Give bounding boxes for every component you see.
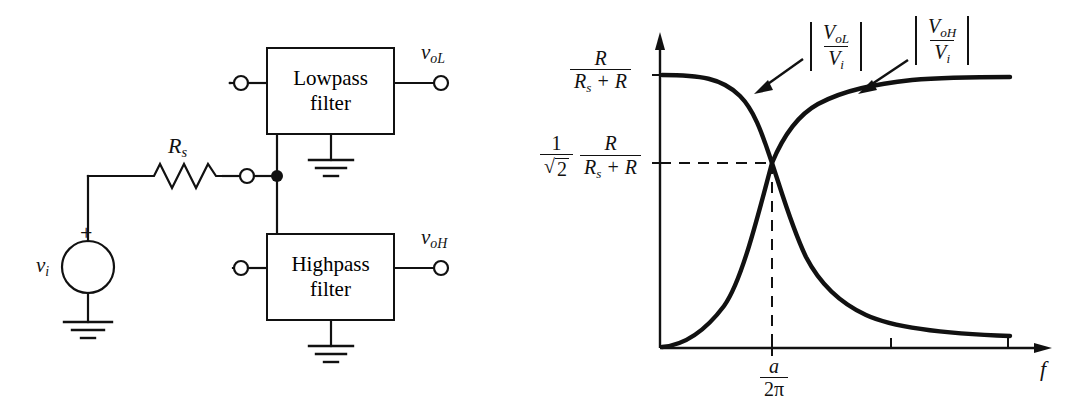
x-axis-arrowhead	[1034, 343, 1052, 353]
y-label-passband-den-sub: s	[586, 80, 591, 95]
cutoff-numerator: a	[769, 355, 779, 377]
annotation-leader-lowpass	[765, 59, 803, 86]
lowpass-ratio-denominator-v: V	[828, 47, 840, 69]
y-axis-arrowhead	[655, 32, 665, 50]
y-label-halfpower-den-plus-r: + R	[606, 156, 637, 178]
y-label-halfpower-numerator: R	[604, 132, 616, 154]
cutoff-denominator: 2π	[764, 378, 784, 400]
sqrt-glyph: √	[544, 156, 555, 176]
y-axis-label-passband: R Rs + R	[570, 48, 631, 95]
absbar-left-lowpass	[810, 22, 812, 71]
x-axis-label-text: f	[1040, 356, 1046, 381]
lowpass-ratio-numerator-v: V	[823, 21, 835, 43]
highpass-ratio-denominator-sub: i	[946, 51, 950, 66]
y-label-halfpower-den-r: R	[584, 156, 596, 178]
highpass-ratio-denominator-v: V	[934, 41, 946, 63]
x-axis-label-f: f	[1040, 358, 1046, 380]
lowpass-ratio-denominator-sub: i	[840, 57, 844, 72]
highpass-ratio-numerator-sub: oH	[940, 25, 956, 40]
curve-label-highpass: VoH Vi	[915, 16, 969, 68]
y-axis-label-half-power: 1 √2 R Rs + R	[540, 133, 641, 180]
x-axis-tick-label-cutoff: a 2π	[760, 356, 788, 400]
half-power-coefficient: 1 √2	[540, 133, 573, 180]
y-label-passband-numerator: R	[594, 47, 606, 69]
y-label-passband-den-plus-r: + R	[596, 70, 627, 92]
y-label-halfpower-den-sub: s	[596, 165, 601, 180]
figure-root: Lowpass filter Highpass filter vi + Rs v…	[0, 0, 1076, 411]
lowpass-ratio-numerator-sub: oL	[835, 31, 849, 46]
half-power-coefficient-num: 1	[547, 133, 565, 154]
absbar-right-highpass	[967, 16, 969, 65]
curve-lowpass-magnitude	[662, 75, 1010, 336]
absbar-left-highpass	[915, 16, 917, 65]
curve-label-lowpass: VoL Vi	[810, 22, 862, 74]
y-label-passband-den-r: R	[574, 70, 586, 92]
curve-highpass-magnitude	[662, 77, 1010, 347]
highpass-ratio-numerator-v: V	[928, 15, 940, 37]
absbar-right-lowpass	[860, 22, 862, 71]
half-power-coefficient-radicand: 2	[555, 158, 569, 179]
